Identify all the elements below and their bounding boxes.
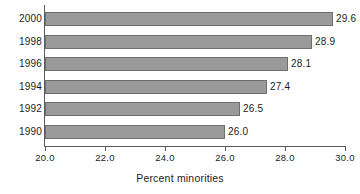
bar	[45, 125, 225, 139]
x-tick-mark	[45, 147, 46, 151]
bar-value-label: 26.0	[228, 125, 248, 139]
bar-value-label: 28.9	[315, 35, 335, 49]
x-tick-mark	[345, 147, 346, 151]
x-tick-label: 26.0	[215, 152, 234, 163]
x-axis-title: Percent minorities	[0, 172, 360, 184]
bar	[45, 57, 288, 71]
x-tick-mark	[285, 147, 286, 151]
bar-row: 28.1	[0, 57, 360, 71]
bar-value-label: 29.6	[336, 12, 356, 26]
bar	[45, 35, 312, 49]
x-axis-line	[44, 146, 346, 147]
x-tick-label: 28.0	[275, 152, 294, 163]
x-tick-mark	[225, 147, 226, 151]
bar-value-label: 27.4	[270, 80, 290, 94]
bar	[45, 102, 240, 116]
bar-value-label: 26.5	[243, 102, 263, 116]
bar-row: 28.9	[0, 35, 360, 49]
category-label: 1996	[19, 57, 42, 71]
x-tick-mark	[165, 147, 166, 151]
bar-row: 26.5	[0, 102, 360, 116]
category-label-wrap: 2000	[2, 12, 42, 26]
bar-value-label: 28.1	[291, 57, 311, 71]
bar-row: 29.6	[0, 12, 360, 26]
bar-chart: 20.022.024.026.028.030.0 29.628.928.127.…	[0, 0, 360, 194]
category-label: 1990	[19, 125, 42, 139]
x-tick-mark	[105, 147, 106, 151]
category-label-wrap: 1996	[2, 57, 42, 71]
category-label: 1994	[19, 80, 42, 94]
x-tick-label: 24.0	[155, 152, 174, 163]
category-label: 1992	[19, 102, 42, 116]
category-label-wrap: 1994	[2, 80, 42, 94]
bar-row: 27.4	[0, 80, 360, 94]
category-label-wrap: 1992	[2, 102, 42, 116]
bar	[45, 12, 333, 26]
bar	[45, 80, 267, 94]
x-tick-label: 22.0	[95, 152, 114, 163]
category-label: 2000	[19, 12, 42, 26]
category-label-wrap: 1998	[2, 35, 42, 49]
category-label-wrap: 1990	[2, 125, 42, 139]
x-tick-label: 30.0	[335, 152, 354, 163]
x-tick-label: 20.0	[35, 152, 54, 163]
bar-row: 26.0	[0, 125, 360, 139]
category-label: 1998	[19, 35, 42, 49]
